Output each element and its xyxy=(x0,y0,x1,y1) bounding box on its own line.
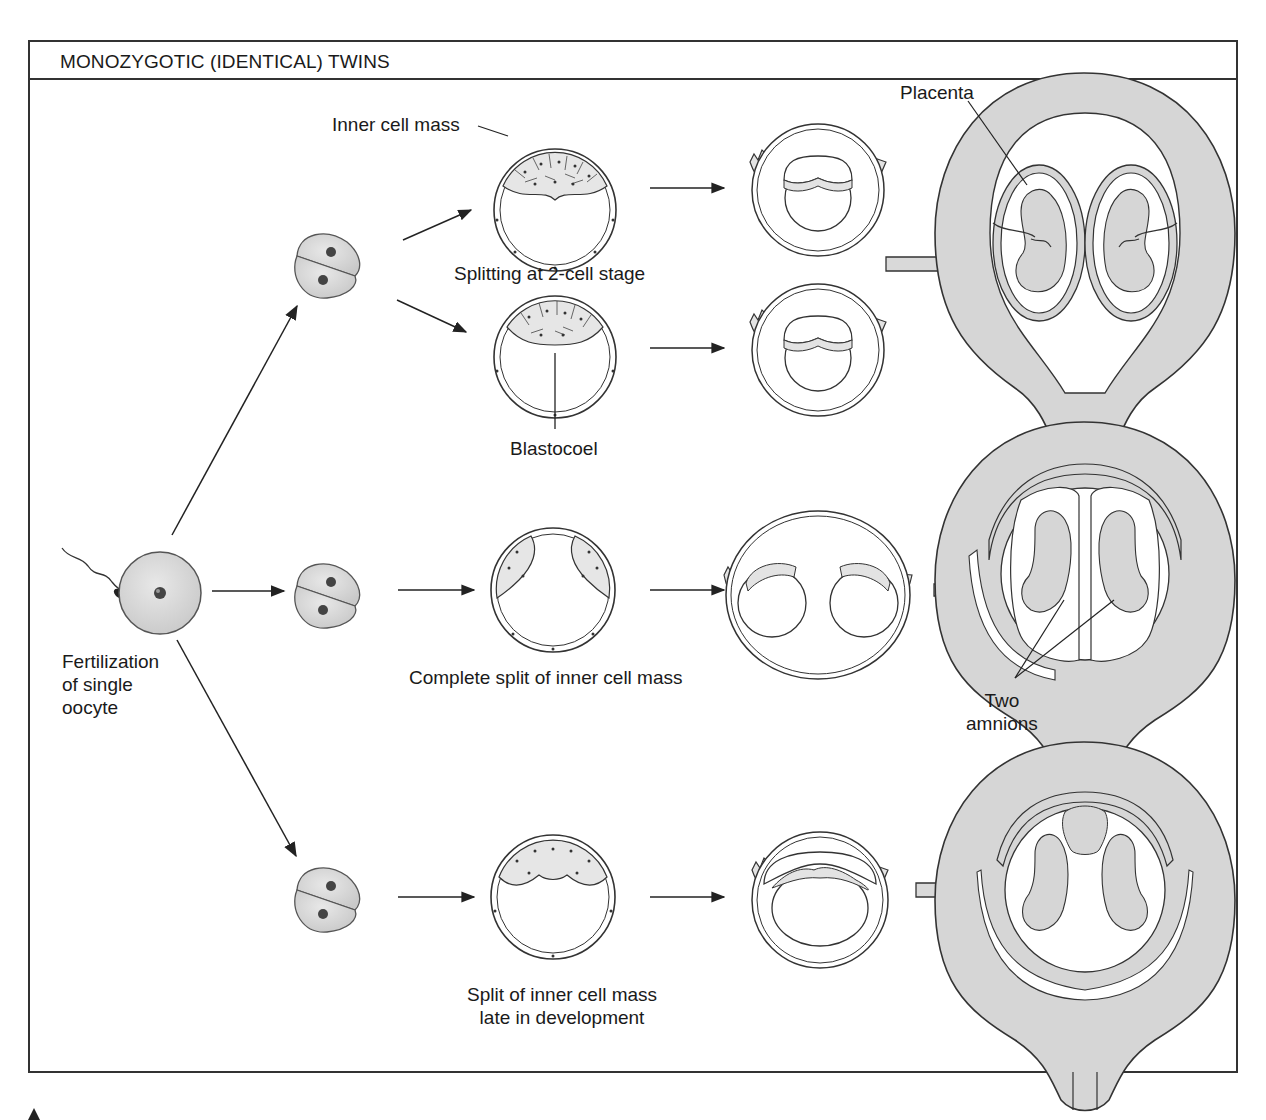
label-fertilization-line1: Fertilization xyxy=(62,650,159,673)
arrow-to-lower-2cell xyxy=(177,640,296,856)
uterus-one-placenta-one-amnion xyxy=(935,742,1235,1111)
label-placenta: Placenta xyxy=(900,81,974,104)
label-splitting-2-cell-stage: Splitting at 2-cell stage xyxy=(454,262,645,285)
two-cell-embryo-top xyxy=(295,234,360,298)
label-two-amnions-line2: amnions xyxy=(966,712,1038,735)
uterus-one-placenta-two-amnions xyxy=(935,422,1235,791)
label-inner-cell-mass: Inner cell mass xyxy=(332,113,460,136)
figure-marker-triangle-icon xyxy=(28,1108,40,1120)
label-two-amnions-line1: Two xyxy=(966,689,1038,712)
implanted-embryo-middle xyxy=(724,511,912,679)
implanted-embryo-second xyxy=(750,284,886,416)
label-two-amnions: Two amnions xyxy=(966,689,1038,735)
implanted-embryo-bottom xyxy=(752,832,888,968)
two-cell-embryo-bottom xyxy=(295,868,360,932)
blastocyst-bottom xyxy=(491,835,615,959)
blastocyst-top xyxy=(494,149,616,271)
label-fertilization: Fertilization of single oocyte xyxy=(62,650,159,719)
arrow-to-upper-2cell xyxy=(172,306,297,535)
label-complete-split: Complete split of inner cell mass xyxy=(409,666,683,689)
diagram-artwork xyxy=(0,0,1266,1120)
implanted-embryo-top xyxy=(750,124,886,256)
label-late-split-line2: late in development xyxy=(452,1006,672,1029)
label-late-split: Split of inner cell mass late in develop… xyxy=(452,983,672,1029)
blastocyst-second xyxy=(494,296,616,429)
label-fertilization-line3: oocyte xyxy=(62,696,159,719)
inner-cell-mass-leader-line xyxy=(478,126,508,136)
label-fertilization-line2: of single xyxy=(62,673,159,696)
label-late-split-line1: Split of inner cell mass xyxy=(452,983,672,1006)
zygote xyxy=(62,548,201,634)
two-cell-embryo-middle xyxy=(295,564,360,628)
label-blastocoel: Blastocoel xyxy=(510,437,598,460)
uterus-two-placentas xyxy=(935,73,1235,470)
blastocyst-middle-split xyxy=(491,528,615,652)
